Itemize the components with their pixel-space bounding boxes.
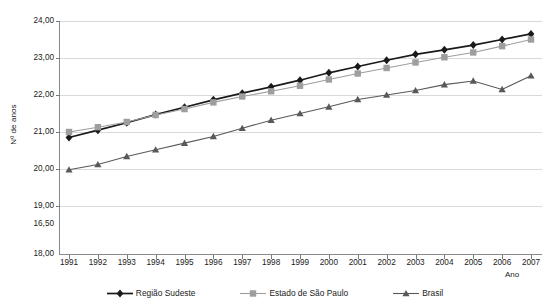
legend-swatch-square xyxy=(239,288,267,299)
legend-swatch-triangle xyxy=(392,288,420,299)
legend-label: Região Sudeste xyxy=(136,288,196,298)
y-tick-label: 18,00 xyxy=(20,249,54,258)
data-point-marker xyxy=(470,41,477,49)
legend-label: Estado de São Paulo xyxy=(269,288,348,298)
data-point-marker xyxy=(325,69,332,77)
data-point-marker xyxy=(499,36,506,44)
series-lines xyxy=(59,21,542,255)
y-tick-label: 23,00 xyxy=(20,53,54,62)
data-point-marker xyxy=(354,63,361,71)
y-tick-label: 21,00 xyxy=(20,127,54,136)
data-point-marker xyxy=(470,77,477,83)
y-tick-label: 22,00 xyxy=(20,90,54,99)
data-point-marker xyxy=(383,65,389,71)
data-point-marker xyxy=(268,88,274,94)
x-axis-title: Ano xyxy=(505,270,519,279)
data-point-marker xyxy=(124,119,130,125)
legend-entry[interactable]: Brasil xyxy=(392,288,443,299)
data-point-marker xyxy=(95,124,101,130)
x-tick-label: 2007 xyxy=(511,258,549,267)
data-point-marker xyxy=(297,83,303,89)
x-axis-tick-labels: 1991199219931994199519961997199819992000… xyxy=(59,258,542,274)
line-chart-figure: Nº de anos 24,0023,0022,0021,0020,0019,0… xyxy=(0,0,549,304)
data-point-marker xyxy=(152,112,158,118)
data-point-marker xyxy=(250,290,256,296)
legend-entry[interactable]: Estado de São Paulo xyxy=(239,288,348,299)
data-point-marker xyxy=(527,72,534,78)
data-point-marker xyxy=(66,129,72,135)
data-point-marker xyxy=(441,54,447,60)
data-point-marker xyxy=(412,50,419,58)
data-point-marker xyxy=(528,36,534,42)
legend-label: Brasil xyxy=(422,288,443,298)
data-point-marker xyxy=(355,70,361,76)
data-point-marker xyxy=(239,93,245,99)
data-point-marker xyxy=(470,49,476,55)
y-tick-label: 20,00 xyxy=(20,164,54,173)
legend-swatch-diamond xyxy=(106,288,134,299)
data-point-marker xyxy=(326,76,332,82)
plot-area xyxy=(59,21,542,255)
data-point-marker xyxy=(181,106,187,112)
y-tick-label: 16,50 xyxy=(20,219,54,228)
data-point-marker xyxy=(116,289,123,297)
data-point-marker xyxy=(412,59,418,65)
series-line xyxy=(69,76,531,170)
legend-entry[interactable]: Região Sudeste xyxy=(106,288,196,299)
data-point-marker xyxy=(499,43,505,49)
chart-legend: Região SudesteEstado de São PauloBrasil xyxy=(0,284,549,302)
y-tick-label: 24,00 xyxy=(20,16,54,25)
data-point-marker xyxy=(210,99,216,105)
data-point-marker xyxy=(441,46,448,54)
y-tick-label: 19,00 xyxy=(20,201,54,210)
data-point-marker xyxy=(383,56,390,64)
